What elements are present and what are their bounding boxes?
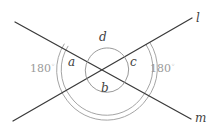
left-straight-angle-value: 180 <box>30 62 51 75</box>
left-degree-symbol: ◦ <box>51 61 55 69</box>
angle-label-b: b <box>101 82 109 94</box>
line-label-m: m <box>195 112 206 124</box>
angle-arc-d <box>89 48 125 59</box>
angle-label-d: d <box>99 31 107 43</box>
angle-label-c: c <box>130 56 137 68</box>
left-straight-angle-arc-outer <box>57 44 67 101</box>
right-straight-angle-value: 180 <box>150 62 171 75</box>
angle-arc-c <box>125 58 129 81</box>
bottom-straight-angle-arc-outer <box>67 99 147 120</box>
right-straight-angle-label: 180◦ <box>150 62 175 74</box>
line-label-l: l <box>196 12 200 24</box>
left-straight-angle-label: 180◦ <box>30 62 55 74</box>
right-degree-symbol: ◦ <box>171 61 175 69</box>
angle-label-a: a <box>68 56 75 68</box>
geometry-figure: a b c d l m 180◦ 180◦ <box>0 0 219 138</box>
